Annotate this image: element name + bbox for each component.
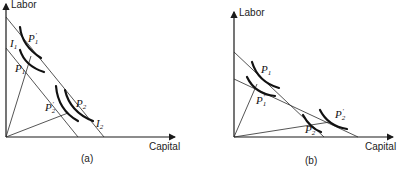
label-b-P2: P2 [304,123,316,137]
ray-a-2 [6,113,68,137]
label-b-P1: P1 [260,63,271,77]
ray-b-1 [234,84,257,137]
panel-a: Labor Capital (a) I1 P1′ P1 P2′ P2 I2 [6,0,180,164]
label-b-P1prime: P1′ [255,93,266,108]
caption-a: (a) [81,153,93,164]
panel-b: Labor Capital (b) P1 P1′ P2 P2′ [234,7,396,166]
label-a-P2: P2 [75,97,87,111]
label-a-I2: I2 [95,117,104,131]
x-axis-label-b: Capital [365,141,396,152]
label-a-I1: I1 [9,37,17,51]
label-b-P2prime: P2′ [334,107,346,122]
isoquant-diagram: Labor Capital (a) I1 P1′ P1 P2′ P2 I2 La… [0,0,397,176]
label-a-P1prime: P1′ [27,31,38,46]
caption-b: (b) [305,155,317,166]
x-axis-label-a: Capital [149,141,180,152]
label-a-P2prime: P2′ [44,100,56,115]
label-a-P1: P1 [14,62,25,76]
y-axis-label-b: Labor [239,7,265,18]
y-axis-label-a: Labor [11,0,37,10]
